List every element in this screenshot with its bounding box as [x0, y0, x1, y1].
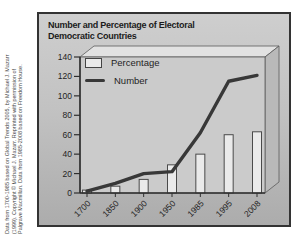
legend-item-percentage: Percentage	[85, 57, 160, 68]
y-tick-label-20: 20	[63, 169, 73, 179]
y-tick-label-140: 140	[58, 52, 72, 62]
x-tick-label-1850: 1850	[100, 198, 121, 219]
percentage-bar-2008	[253, 132, 262, 193]
credit-line-3: Palgrave Macmillan. Data from 1985-2008 …	[17, 8, 24, 234]
percentage-bar-1985	[196, 154, 205, 193]
y-tick-label-60: 60	[63, 130, 73, 140]
legend-percentage-label: Percentage	[111, 57, 160, 68]
y-tick-label-0: 0	[67, 188, 72, 198]
percentage-bar-1900	[139, 179, 148, 193]
credit-line-1: Data from 1700-1985 based on Global Tren…	[4, 8, 11, 234]
y-tick-label-100: 100	[58, 91, 72, 101]
chart-title-line-1: Number and Percentage of Electoral	[48, 20, 195, 31]
percentage-bar-1995	[224, 135, 233, 193]
x-tick-label-1700: 1700	[72, 198, 93, 219]
legend-percentage-swatch	[85, 58, 102, 68]
legend-number-swatch	[85, 79, 105, 83]
x-tick-label-1900: 1900	[129, 198, 150, 219]
chart-canvas: 0204060801001201401700185019001950198519…	[39, 14, 289, 225]
x-tick-label-1995: 1995	[214, 198, 235, 219]
y-tick-label-80: 80	[63, 110, 73, 120]
box-side-face	[265, 46, 279, 193]
credit-line-2: (1999). Copyright © Michael J. Mazarr. R…	[11, 8, 18, 234]
chart-title: Number and Percentage of Electoral Democ…	[48, 20, 195, 42]
y-tick-label-120: 120	[58, 71, 72, 81]
legend-item-number: Number	[85, 75, 160, 86]
percentage-bar-1850	[111, 186, 120, 193]
box-top-face	[80, 46, 279, 57]
x-tick-label-1950: 1950	[157, 198, 178, 219]
x-tick-label-1985: 1985	[185, 198, 206, 219]
chart-title-line-2: Democratic Countries	[48, 31, 195, 42]
y-tick-label-40: 40	[63, 149, 73, 159]
credit-text: Data from 1700-1985 based on Global Tren…	[4, 8, 24, 234]
legend-number-label: Number	[114, 75, 148, 86]
figure-panel: 0204060801001201401700185019001950198519…	[37, 12, 291, 227]
x-tick-label-2008: 2008	[242, 198, 263, 219]
legend: Percentage Number	[85, 57, 160, 93]
